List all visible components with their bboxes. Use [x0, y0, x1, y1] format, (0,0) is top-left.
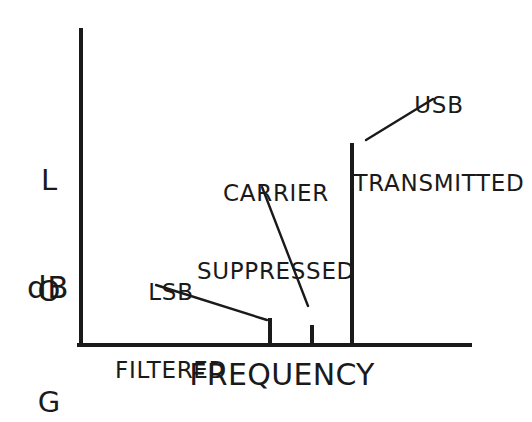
y-axis-label-db: dB — [20, 270, 76, 304]
annotation-usb-line-2: TRANSMITTED — [346, 170, 532, 196]
annotation-carrier-line-2: SUPPRESSED — [196, 258, 356, 284]
y-axis-label-log: L O G — [26, 88, 72, 422]
annotation-carrier-line-1: CARRIER — [196, 180, 356, 206]
ssb-spectrum-figure: L O G dB FREQUENCY LSB FILTERED CARRIER … — [0, 0, 532, 422]
annotation-carrier-suppressed: CARRIER SUPPRESSED — [196, 128, 356, 336]
y-axis-label-log-line-3: G — [26, 384, 72, 421]
annotation-lsb-line-2: FILTERED — [100, 357, 242, 383]
annotation-usb-transmitted: USB TRANSMITTED — [346, 40, 532, 248]
annotation-usb-line-1: USB — [346, 92, 532, 118]
y-axis-label-log-line-1: L — [26, 162, 72, 199]
